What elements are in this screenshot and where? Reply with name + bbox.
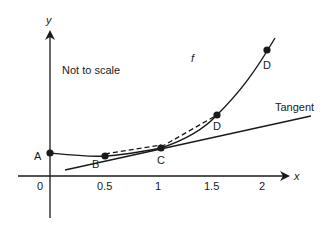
x-tick-0: 0	[37, 180, 43, 192]
point-d-far	[263, 46, 270, 53]
point-d-near	[213, 111, 220, 118]
not-to-scale-note: Not to scale	[62, 64, 120, 76]
point-label-d-far: D	[263, 59, 271, 71]
x-tick-1-5: 1.5	[204, 180, 219, 192]
y-axis-label: y	[45, 14, 53, 26]
point-label-a: A	[34, 150, 42, 162]
x-tick-2: 2	[259, 180, 265, 192]
point-b	[101, 152, 108, 159]
x-tick-0-5: 0.5	[97, 180, 112, 192]
tangent-line	[65, 116, 311, 170]
tangent-label: Tangent	[275, 101, 314, 113]
point-label-b: B	[92, 158, 99, 170]
diagram-canvas: y x Not to scale f Tangent A B C D D 0 0…	[0, 0, 327, 228]
point-label-c: C	[157, 154, 165, 166]
point-c	[157, 144, 164, 151]
point-a	[46, 149, 53, 156]
x-axis-label: x	[293, 170, 300, 182]
function-label: f	[191, 52, 195, 64]
x-tick-1: 1	[155, 180, 161, 192]
function-curve	[50, 38, 275, 156]
point-label-d-near: D	[213, 120, 221, 132]
